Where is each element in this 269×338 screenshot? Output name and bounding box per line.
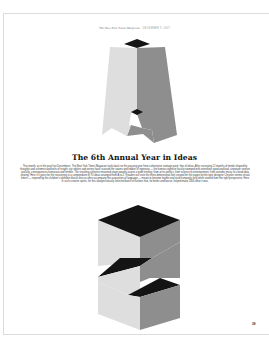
article-intro: This month, as in the past five December… <box>20 165 250 183</box>
letter-a-left-face <box>102 47 137 136</box>
letter-a-top-face <box>124 39 150 48</box>
page-number: 39 <box>252 322 255 326</box>
article-title: The 6th Annual Year in Ideas <box>0 153 269 163</box>
letter-z-illustration <box>0 195 269 338</box>
letter-a-illustration <box>0 0 269 150</box>
